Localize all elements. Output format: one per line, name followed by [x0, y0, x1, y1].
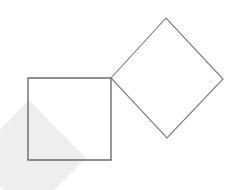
watermark-diamond	[0, 100, 86, 190]
right-diamond	[111, 18, 223, 138]
geometry-figure-svg	[0, 0, 239, 190]
figure-canvas	[0, 0, 239, 190]
